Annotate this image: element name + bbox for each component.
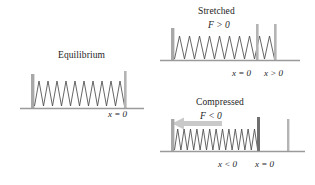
position-marker-xneg xyxy=(257,117,260,151)
spring-coil-compressed xyxy=(175,129,258,150)
panel-compressed-label-xneg: x < 0 xyxy=(218,159,237,169)
wall-bar-left xyxy=(171,28,174,60)
spring-coil-equilibrium xyxy=(35,81,125,106)
wall-bar-left xyxy=(171,119,174,151)
position-marker-x0 xyxy=(287,119,289,151)
spring-diagram-figure: Equilibrium x = 0 Stretched F > 0 xyxy=(0,0,315,185)
panel-compressed: Compressed F < 0 x < 0 x = 0 xyxy=(160,97,310,182)
panel-equilibrium: Equilibrium x = 0 xyxy=(18,50,148,120)
panel-stretched-label-xpos: x > 0 xyxy=(264,68,283,78)
wall-bar-left xyxy=(31,74,34,108)
panel-compressed-label-x0: x = 0 xyxy=(255,159,274,169)
panel-stretched: Stretched F > 0 x = 0 x > 0 xyxy=(160,6,310,86)
panel-stretched-label-x0: x = 0 xyxy=(232,68,251,78)
position-marker-xpos xyxy=(274,24,277,60)
panel-stretched-force-label: F > 0 xyxy=(208,20,230,30)
panel-compressed-force-label: F < 0 xyxy=(200,111,222,121)
position-marker-x0 xyxy=(124,71,127,108)
panel-stretched-graphic xyxy=(160,6,310,68)
spring-coil-stretched xyxy=(175,36,275,59)
position-marker-x0 xyxy=(256,24,259,60)
panel-equilibrium-caption: Equilibrium xyxy=(58,50,105,60)
panel-stretched-caption: Stretched xyxy=(198,6,235,16)
panel-equilibrium-label-x0: x = 0 xyxy=(108,109,127,119)
panel-equilibrium-graphic xyxy=(18,50,148,120)
panel-compressed-caption: Compressed xyxy=(196,97,244,107)
